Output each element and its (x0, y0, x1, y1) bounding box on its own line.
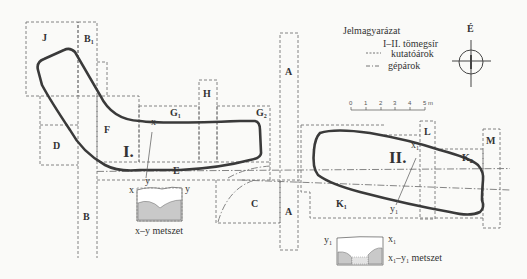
excavation-plan (0, 0, 527, 279)
trench-label-B1: B1 (84, 34, 94, 45)
scale-tick-1: 1 (364, 100, 367, 106)
legend-title: Jelmagyarázat (343, 26, 400, 36)
section-point-y: y (145, 176, 150, 186)
scale-tick-0: 0 (349, 100, 352, 106)
compass-icon (452, 40, 491, 87)
trench-label-K2: K2 (462, 153, 473, 164)
trench-label-L: L (424, 127, 431, 137)
scale-tick-3: 3 (393, 100, 396, 106)
section-xy-right-label: y (185, 184, 190, 194)
section-point-x: x (151, 117, 156, 127)
trench-label-H: H (203, 89, 211, 99)
trench-J (26, 22, 78, 96)
trench-label-F: F (104, 125, 110, 135)
scale-tick-2: 2 (379, 100, 382, 106)
scale-bar (351, 107, 425, 110)
scale-tick-4: 4 (408, 100, 411, 106)
section-xy-left-label: x (129, 185, 134, 195)
trench-label-J: J (42, 33, 47, 43)
section-x-y-drawing (137, 187, 182, 221)
trench-label-A-bottom: A (285, 207, 292, 217)
trench-label-G2: G2 (256, 108, 267, 119)
section-xy-caption: x–y metszet (135, 226, 183, 236)
machine-trench-2 (240, 180, 510, 190)
legend-item-machine-trench: gépárok (388, 61, 420, 71)
compass-north-label: É (467, 24, 474, 34)
section-x1y1-right-label: x1 (388, 234, 396, 245)
trench-label-D: D (53, 141, 60, 151)
trench-G1 (139, 106, 199, 162)
section-point-x1: x1 (411, 140, 419, 151)
trench-label-M: M (486, 136, 495, 146)
trench-label-B: B (83, 212, 90, 222)
trench-C (216, 180, 280, 223)
legend-item-research-trench: kutatóárok (391, 49, 434, 59)
machine-trench-curve-1 (218, 180, 255, 222)
section-point-y1: y1 (390, 204, 398, 215)
mass-grave-II-label: II. (389, 149, 406, 166)
scale-tick-5: 5 m (423, 100, 433, 106)
trench-label-G1: G1 (170, 108, 181, 119)
machine-trench-curve-2 (228, 166, 270, 178)
trench-D (40, 96, 78, 165)
trench-label-E: E (173, 166, 180, 176)
section-x1y1-left-label: y1 (324, 235, 332, 246)
section-x1-y1-drawing (337, 237, 383, 265)
trench-label-A-top: A (285, 67, 292, 77)
trench-label-C: C (251, 199, 258, 209)
trench-label-K1: K1 (336, 199, 347, 210)
section-x1y1-caption: x1–y1 metszet (388, 253, 442, 264)
mass-grave-I-label: I. (123, 143, 134, 160)
